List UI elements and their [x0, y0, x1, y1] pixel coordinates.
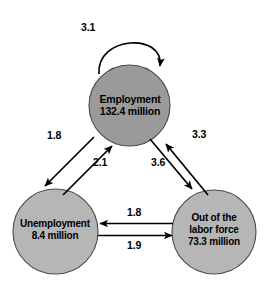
- flow-label-out-of-labor-force-to-unemployment: 1.8: [127, 206, 141, 218]
- flow-label-unemployment-to-employment: 2.1: [93, 156, 107, 168]
- node-unemployment-circle: [13, 189, 98, 274]
- flow-label-employment-to-out-of-labor-force: 3.6: [151, 156, 165, 168]
- flow-arrow-unemployment-to-employment: [63, 146, 112, 195]
- flow-arrow-employment-to-unemployment: [45, 137, 94, 186]
- flow-arrow-out-of-labor-force-to-employment: [166, 144, 208, 195]
- labor-market-flow-diagram: Employment 132.4 million Unemployment 8.…: [0, 0, 272, 284]
- flow-label-employment-to-unemployment: 1.8: [47, 129, 61, 141]
- node-out-of-labor-force-circle: [172, 190, 256, 274]
- node-employment-circle: [89, 65, 170, 146]
- flow-label-employment-to-employment: 3.1: [81, 21, 95, 33]
- flow-label-unemployment-to-out-of-labor-force: 1.9: [127, 239, 141, 251]
- flow-label-out-of-labor-force-to-employment: 3.3: [192, 128, 206, 140]
